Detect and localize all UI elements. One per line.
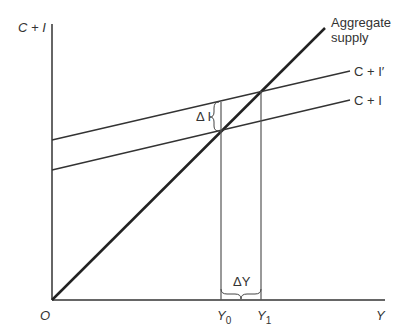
c-plus-i-label: C + I: [354, 93, 382, 108]
delta-i-label: Δ I: [196, 109, 211, 124]
aggregate-supply-label-line2: supply: [331, 30, 369, 45]
origin-label: O: [40, 308, 50, 323]
y-axis-label: C + I: [18, 20, 46, 35]
y0-label-sub: 0: [226, 315, 232, 326]
aggregate-supply-line: [52, 28, 325, 300]
aggregate-supply-label-line1: Aggregate: [331, 15, 391, 30]
y0-label: Y0: [217, 308, 232, 326]
keynesian-cross-diagram: C + I O Y Aggregate supply C + I′ C + I …: [0, 0, 402, 335]
delta-y-brace-icon: [221, 289, 261, 299]
delta-y-label: ΔY: [233, 274, 251, 289]
x-axis-label: Y: [376, 308, 386, 323]
y1-label-sub: 1: [266, 315, 272, 326]
c-plus-i-prime-line: [52, 71, 350, 140]
c-plus-i-prime-label: C + I′: [354, 64, 385, 79]
y1-label: Y1: [257, 308, 272, 326]
delta-i-brace-icon: [210, 102, 219, 131]
